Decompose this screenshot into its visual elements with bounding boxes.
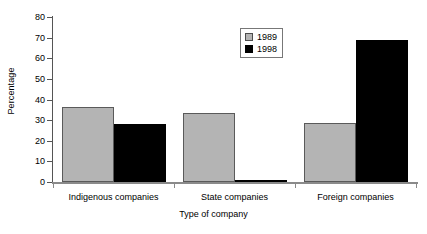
x-axis-tick xyxy=(53,183,54,188)
y-axis-tick-label: 40 xyxy=(1,96,45,105)
y-axis-tick xyxy=(47,38,52,39)
y-axis-tick xyxy=(47,100,52,101)
bar-1998-2 xyxy=(356,40,408,182)
x-axis-category-label: Foreign companies xyxy=(317,192,394,202)
legend-item-1989: 1989 xyxy=(245,32,277,42)
bar-1998-0 xyxy=(114,124,166,182)
y-axis-tick xyxy=(47,120,52,121)
legend-label-1989: 1989 xyxy=(257,32,277,42)
legend-label-1998: 1998 xyxy=(257,44,277,54)
y-axis-tick xyxy=(47,79,52,80)
bar-chart-figure: Percentage 80706050403020100 Indigenous … xyxy=(0,0,427,234)
y-axis-tick xyxy=(47,58,52,59)
legend-item-1998: 1998 xyxy=(245,44,277,54)
y-axis-tick xyxy=(47,182,52,183)
x-axis-title-text: Type of company xyxy=(179,209,248,219)
y-axis-tick-label: 60 xyxy=(1,54,45,63)
x-axis-category-label: State companies xyxy=(201,192,268,202)
y-axis-tick-label: 30 xyxy=(1,116,45,125)
x-axis-tick xyxy=(174,183,175,188)
y-axis-tick-label: 20 xyxy=(1,137,45,146)
bar-1989-2 xyxy=(304,123,356,182)
y-axis-tick-label: 70 xyxy=(1,34,45,43)
legend-swatch-icon-1989 xyxy=(245,33,253,41)
x-axis-line xyxy=(52,182,418,184)
y-axis-tick-label: 0 xyxy=(1,178,45,187)
x-axis-title: Type of company xyxy=(0,209,427,219)
y-axis-tick-label: 80 xyxy=(1,13,45,22)
bar-1989-1 xyxy=(183,113,235,182)
bar-1989-0 xyxy=(62,107,114,182)
legend-swatch-icon-1998 xyxy=(245,45,253,53)
bar-1998-1 xyxy=(235,180,287,182)
x-axis-tick xyxy=(416,183,417,188)
x-axis-tick xyxy=(295,183,296,188)
y-axis-tick-label: 10 xyxy=(1,157,45,166)
x-axis-category-label: Indigenous companies xyxy=(68,192,158,202)
y-axis-tick xyxy=(47,17,52,18)
y-axis-tick-labels: 80706050403020100 xyxy=(0,0,45,234)
y-axis-tick xyxy=(47,161,52,162)
legend: 1989 1998 xyxy=(240,28,283,58)
y-axis-tick xyxy=(47,141,52,142)
plot-area xyxy=(53,17,416,182)
y-axis-tick-label: 50 xyxy=(1,75,45,84)
